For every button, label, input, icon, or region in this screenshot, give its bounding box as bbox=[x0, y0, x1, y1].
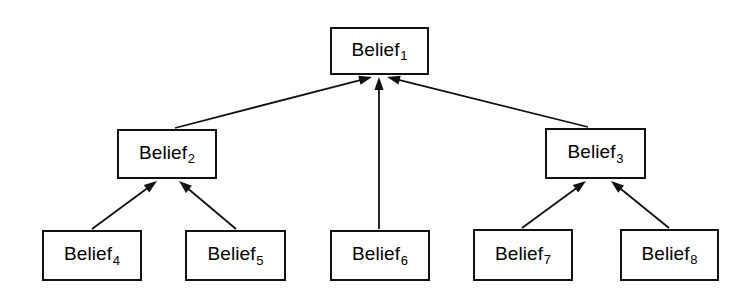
arrowhead bbox=[144, 181, 157, 192]
belief-node-2[interactable]: Belief2 bbox=[117, 129, 217, 179]
belief-node-5-label: Belief5 bbox=[208, 244, 264, 267]
belief-node-7-label: Belief7 bbox=[495, 244, 551, 267]
edge-belief8-to-belief3 bbox=[611, 181, 669, 228]
edge-line bbox=[522, 187, 578, 228]
belief-node-8-label: Belief8 bbox=[642, 244, 698, 267]
belief-node-6[interactable]: Belief6 bbox=[330, 230, 430, 281]
belief-network-diagram: Belief1 Belief2 Belief3 Belief4 Belief5 … bbox=[0, 0, 756, 299]
belief-node-7[interactable]: Belief7 bbox=[473, 229, 573, 281]
arrowhead bbox=[573, 181, 586, 192]
belief-subscript: 2 bbox=[187, 151, 195, 166]
belief-node-4[interactable]: Belief4 bbox=[42, 230, 142, 281]
belief-node-3[interactable]: Belief3 bbox=[545, 128, 646, 179]
belief-subscript: 5 bbox=[256, 253, 264, 268]
belief-subscript: 8 bbox=[690, 252, 698, 267]
belief-subscript: 3 bbox=[616, 151, 624, 166]
belief-subscript: 7 bbox=[543, 252, 551, 267]
belief-node-6-label: Belief6 bbox=[352, 244, 408, 267]
edge-line bbox=[397, 79, 588, 127]
edge-belief6-to-belief1 bbox=[374, 77, 383, 229]
arrowhead bbox=[374, 77, 383, 90]
belief-node-4-label: Belief4 bbox=[64, 244, 120, 267]
edge-belief2-to-belief1 bbox=[175, 76, 372, 128]
edge-line bbox=[175, 80, 362, 128]
belief-node-2-label: Belief2 bbox=[139, 143, 195, 166]
belief-node-5[interactable]: Belief5 bbox=[185, 230, 286, 281]
belief-node-8[interactable]: Belief8 bbox=[620, 229, 719, 281]
belief-subscript: 4 bbox=[112, 253, 120, 268]
edge-line bbox=[187, 187, 236, 229]
edge-belief7-to-belief3 bbox=[522, 181, 586, 228]
edge-line bbox=[619, 187, 669, 228]
edge-belief3-to-belief1 bbox=[387, 76, 588, 127]
belief-subscript: 1 bbox=[400, 48, 408, 63]
edge-belief5-to-belief2 bbox=[179, 181, 236, 229]
belief-node-1[interactable]: Belief1 bbox=[330, 27, 429, 75]
edge-belief4-to-belief2 bbox=[92, 181, 157, 229]
arrowhead bbox=[358, 76, 372, 85]
belief-subscript: 6 bbox=[400, 253, 408, 268]
belief-node-1-label: Belief1 bbox=[352, 40, 408, 63]
belief-node-3-label: Belief3 bbox=[568, 142, 624, 165]
edge-line bbox=[92, 187, 149, 229]
arrowhead bbox=[387, 76, 401, 85]
